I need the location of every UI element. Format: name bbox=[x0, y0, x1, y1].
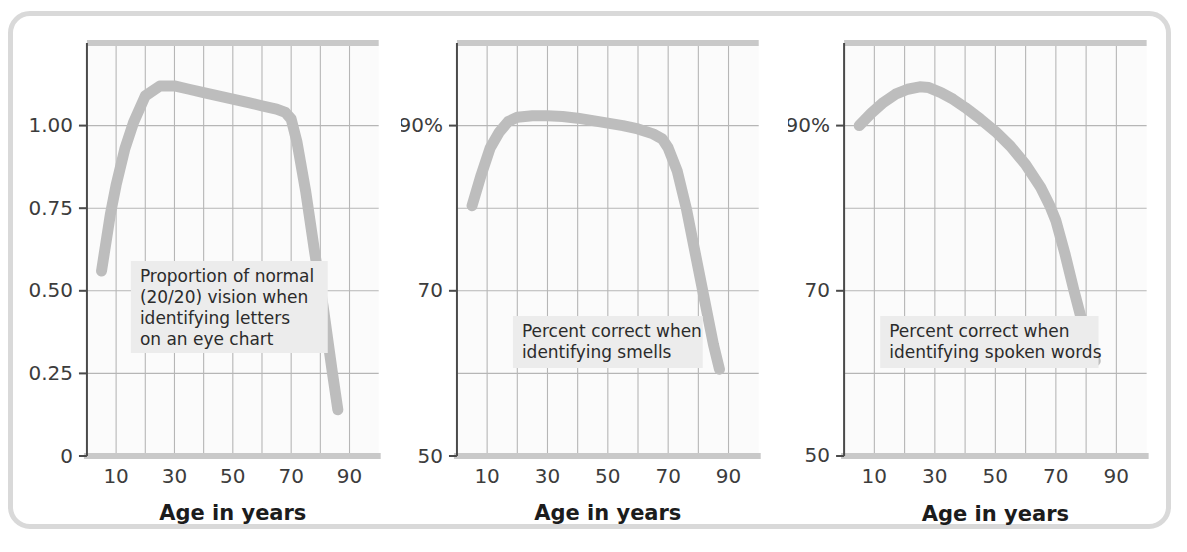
annotation-callout: Percent correct whenidentifying smells bbox=[513, 316, 703, 368]
annotation-line: identifying smells bbox=[522, 342, 672, 362]
y-tick-label: 70 bbox=[805, 278, 830, 302]
x-tick-label: 90 bbox=[715, 464, 740, 488]
y-tick-label: 70 bbox=[417, 278, 442, 302]
x-axis-title: Age in years bbox=[534, 501, 681, 525]
x-tick-label: 10 bbox=[862, 464, 887, 488]
annotation-callout: Percent correct whenidentifying spoken w… bbox=[881, 316, 1102, 368]
annotation-line: Percent correct when bbox=[890, 321, 1070, 341]
chart-panel-smell: 507090% 1030507090 Age in years Percent … bbox=[401, 16, 789, 534]
x-tick-label: 50 bbox=[220, 464, 245, 488]
y-axis-tick-labels: 507090% bbox=[788, 113, 830, 467]
tick-marks bbox=[836, 126, 844, 456]
y-tick-label: 0.50 bbox=[28, 278, 72, 302]
x-tick-label: 10 bbox=[103, 464, 128, 488]
tick-marks bbox=[79, 126, 87, 456]
y-tick-label: 90% bbox=[401, 113, 443, 137]
x-tick-label: 90 bbox=[1104, 464, 1129, 488]
x-tick-label: 30 bbox=[534, 464, 559, 488]
x-tick-label: 50 bbox=[595, 464, 620, 488]
x-tick-label: 70 bbox=[655, 464, 680, 488]
y-axis-tick-labels: 507090% bbox=[401, 113, 443, 467]
x-axis-tick-labels: 1030507090 bbox=[103, 464, 362, 488]
y-tick-label: 0.25 bbox=[28, 361, 72, 385]
x-tick-label: 50 bbox=[983, 464, 1008, 488]
x-axis-tick-labels: 1030507090 bbox=[862, 464, 1129, 488]
vision-chart-svg: 00.250.500.751.00 1030507090 Age in year… bbox=[13, 16, 401, 534]
figure-frame: 00.250.500.751.00 1030507090 Age in year… bbox=[8, 11, 1171, 529]
annotation-line: (20/20) vision when bbox=[140, 287, 308, 307]
annotation-line: Percent correct when bbox=[522, 321, 702, 341]
x-tick-label: 70 bbox=[1043, 464, 1068, 488]
x-axis-tick-labels: 1030507090 bbox=[474, 464, 741, 488]
y-tick-label: 1.00 bbox=[28, 113, 72, 137]
y-axis-tick-labels: 00.250.500.751.00 bbox=[28, 113, 72, 467]
x-tick-label: 90 bbox=[337, 464, 362, 488]
x-axis-title: Age in years bbox=[922, 501, 1069, 526]
x-tick-label: 30 bbox=[922, 464, 947, 488]
annotation-callout: Proportion of normal(20/20) vision wheni… bbox=[131, 261, 328, 353]
x-tick-label: 70 bbox=[278, 464, 303, 488]
chart-panel-spoken-words: 507090% 1030507090 Age in years Percent … bbox=[788, 16, 1176, 534]
annotation-line: identifying spoken words bbox=[890, 342, 1102, 362]
y-tick-label: 50 bbox=[417, 443, 442, 467]
x-tick-label: 10 bbox=[474, 464, 499, 488]
annotation-line: Proportion of normal bbox=[140, 266, 314, 286]
tick-marks bbox=[449, 126, 457, 456]
y-tick-label: 0.75 bbox=[28, 196, 72, 220]
annotation-line: identifying letters bbox=[140, 308, 290, 328]
x-axis-title: Age in years bbox=[159, 501, 306, 525]
y-tick-label: 90% bbox=[788, 113, 830, 137]
annotation-line: on an eye chart bbox=[140, 329, 274, 349]
smell-chart-svg: 507090% 1030507090 Age in years Percent … bbox=[401, 16, 789, 534]
chart-panel-group: 00.250.500.751.00 1030507090 Age in year… bbox=[13, 16, 1176, 534]
x-tick-label: 30 bbox=[162, 464, 187, 488]
chart-panel-vision: 00.250.500.751.00 1030507090 Age in year… bbox=[13, 16, 401, 534]
y-tick-label: 0 bbox=[60, 443, 73, 467]
spoken-words-chart-svg: 507090% 1030507090 Age in years Percent … bbox=[788, 16, 1176, 534]
y-tick-label: 50 bbox=[805, 444, 830, 468]
